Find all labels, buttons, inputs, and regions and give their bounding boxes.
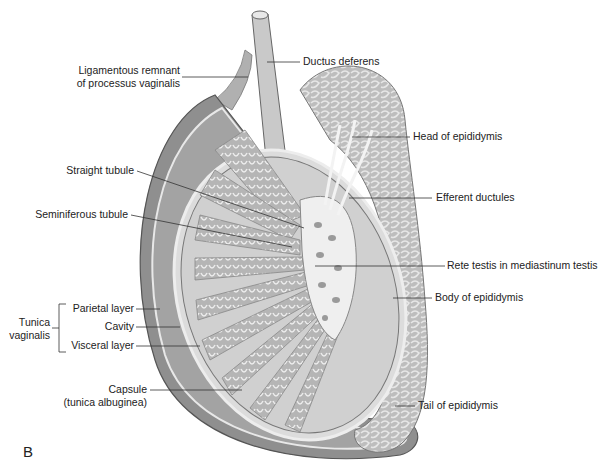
label-straight-tubule: Straight tubule (30, 164, 134, 177)
label-line: Capsule (40, 383, 147, 396)
label-ductus-deferens: Ductus deferens (303, 55, 379, 68)
label-line: Tunica (4, 316, 50, 329)
label-ligamentous-remnant: Ligamentous remnant of processus vaginal… (40, 64, 180, 90)
label-line: Ligamentous remnant (40, 64, 180, 77)
label-tunica-vaginalis: Tunica vaginalis (4, 316, 50, 342)
label-line: of processus vaginalis (40, 77, 180, 90)
label-visceral-layer: Visceral layer (60, 339, 134, 352)
label-tail-of-epididymis: Tail of epididymis (418, 399, 498, 412)
label-line: (tunica albuginea) (40, 396, 147, 409)
testis-diagram: Ligamentous remnant of processus vaginal… (0, 0, 600, 473)
label-seminiferous-tubule: Seminiferous tubule (20, 208, 128, 221)
label-head-of-epididymis: Head of epididymis (413, 130, 502, 143)
label-body-of-epididymis: Body of epididymis (435, 291, 523, 304)
label-line: vaginalis (4, 329, 50, 342)
label-efferent-ductules: Efferent ductules (436, 191, 515, 204)
label-parietal-layer: Parietal layer (60, 302, 134, 315)
label-capsule: Capsule (tunica albuginea) (40, 383, 147, 409)
label-cavity: Cavity (60, 320, 134, 333)
label-rete-testis: Rete testis in mediastinum testis (447, 259, 598, 272)
panel-letter: B (23, 443, 33, 460)
